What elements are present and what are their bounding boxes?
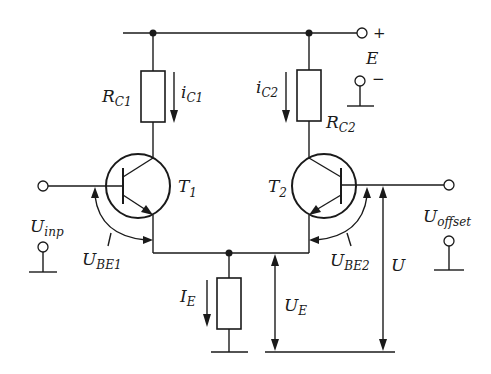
ue-label: UE — [284, 295, 307, 318]
ube1-arrow-head-end — [143, 236, 153, 244]
ube2-arrow-head-end — [309, 236, 319, 244]
supply-label: E — [365, 48, 379, 68]
ie-arrow-head — [203, 314, 211, 327]
input-ground-terminal — [38, 242, 48, 252]
supply-minus-sign: − — [372, 70, 385, 88]
ic2-label: iC2 — [256, 77, 278, 100]
supply-minus-terminal — [355, 76, 365, 86]
ie-label: IE — [179, 286, 196, 309]
t2-collector-lead — [309, 158, 341, 177]
ube1-arrow-head-start — [91, 187, 99, 198]
t1-collector-lead — [123, 158, 153, 177]
rc1-label: RC1 — [101, 86, 132, 109]
offset-terminal — [444, 180, 454, 190]
t1-emitter-arrow — [141, 205, 153, 215]
u-label: U — [391, 255, 406, 275]
uoffset-label: Uoffset — [423, 206, 471, 229]
resistor-rc1 — [141, 71, 165, 122]
transistor-t2 — [292, 154, 356, 218]
input-terminal — [38, 181, 48, 191]
uinp-label: Uinp — [30, 216, 64, 239]
t1-label: T1 — [178, 176, 197, 200]
ube1-label: UBE1 — [82, 249, 122, 272]
resistor-rc2 — [297, 70, 321, 121]
ic1-label: iC1 — [181, 82, 203, 105]
t1-emitter-lead — [123, 195, 146, 210]
ube1-leader — [108, 233, 111, 246]
rc2-label: RC2 — [325, 112, 356, 135]
u-arrow-head-bottom — [379, 339, 387, 351]
circuit-diagram: + E − RC1 iC1 RC2 iC2 T1 T2 — [0, 0, 491, 374]
t2-label: T2 — [268, 176, 287, 200]
resistor-re — [217, 278, 241, 329]
offset-ground-terminal — [444, 236, 454, 246]
ue-arrow-head-bottom — [271, 339, 279, 351]
ube2-arrow-head-start — [363, 187, 371, 198]
ube2-label: UBE2 — [330, 250, 370, 273]
ic1-arrow-head — [170, 110, 178, 123]
u-arrow-head-top — [379, 186, 387, 198]
ube2-leader — [347, 233, 351, 246]
supply-plus-sign: + — [373, 24, 386, 42]
ic2-arrow-head — [282, 110, 290, 123]
t2-body — [292, 154, 356, 218]
t2-emitter-lead — [316, 195, 341, 210]
supply-plus-terminal — [357, 28, 367, 38]
t2-emitter-arrow — [309, 205, 321, 215]
ue-arrow-head-top — [271, 254, 279, 266]
